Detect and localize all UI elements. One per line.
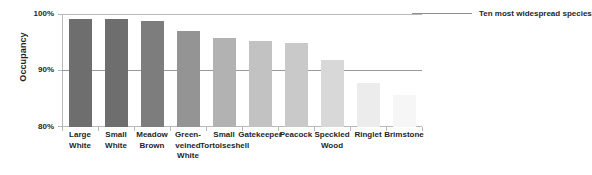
bar-peacock [285, 43, 308, 127]
legend-label: Ten most widespread species [479, 9, 592, 18]
y-tick-label-80: 80% [24, 123, 54, 131]
bar-brimstone [393, 95, 416, 127]
bar-ringlet [357, 83, 380, 127]
bar-gatekeeper [249, 41, 272, 127]
bar-small-tortoiseshell [213, 38, 236, 127]
bar-speckled-wood [321, 60, 344, 127]
bar-small-white [105, 19, 128, 127]
y-tick-label-90: 90% [24, 66, 54, 74]
legend-line-icon [412, 13, 472, 14]
y-axis-tick-labels: 100% 90% 80% [22, 0, 54, 175]
bar-series [62, 14, 422, 127]
x-label-brimstone: Brimstone [380, 130, 428, 141]
bar-large-white [69, 19, 92, 127]
bar-meadow-brown [141, 21, 164, 127]
x-label-line: White [164, 151, 212, 162]
plot-area [62, 14, 422, 127]
x-label-line: Tortoiseshell [200, 141, 248, 152]
legend: Ten most widespread species [412, 9, 592, 18]
x-label-line: Wood [308, 141, 356, 152]
y-tick-label-100: 100% [24, 10, 54, 18]
x-axis-category-labels: LargeWhiteSmallWhiteMeadowBrownGreen-vei… [62, 130, 422, 175]
x-label-line: Brimstone [380, 130, 428, 141]
bar-green-veined-white [177, 31, 200, 127]
